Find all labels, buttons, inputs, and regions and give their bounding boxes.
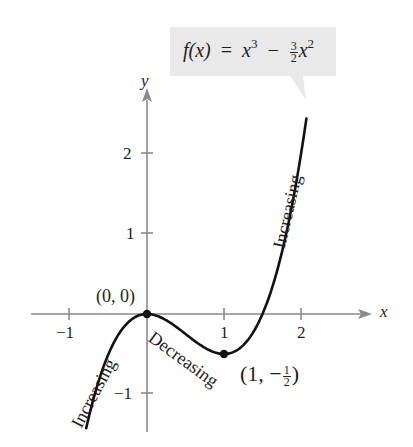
min-label-fraction: 12 <box>283 365 291 388</box>
formula-operator: − <box>267 39 278 61</box>
label-pointer <box>290 76 306 100</box>
y-axis-label: y <box>141 72 149 89</box>
formula-term1-base: x <box>242 39 251 61</box>
formula-term1-exp: 3 <box>251 36 258 51</box>
formula-coefficient: 32 <box>290 41 298 64</box>
min-label-post: ) <box>292 361 299 386</box>
formula-equals: = <box>221 39 232 61</box>
formula-lhs: f(x) <box>183 39 211 61</box>
formula-term2-base: x <box>299 39 308 61</box>
min-label-pre: (1, − <box>240 361 282 386</box>
relative-min-point <box>220 350 228 358</box>
relative-max-point <box>143 310 151 318</box>
x-tick-label-1: 1 <box>220 324 229 341</box>
y-axis-arrow-icon <box>142 88 152 102</box>
x-axis-label: x <box>380 303 388 320</box>
coef-denominator: 2 <box>290 53 298 64</box>
formula-term2-exp: 2 <box>308 36 315 51</box>
function-formula: f(x) = x3 − 32x2 <box>183 39 314 64</box>
y-tick-label-1: 1 <box>126 225 135 242</box>
x-tick-label-neg1: −1 <box>56 324 74 341</box>
relative-min-label: (1, −12) <box>240 363 299 388</box>
relative-max-label: (0, 0) <box>96 287 135 305</box>
x-axis <box>31 308 362 320</box>
y-tick-label-neg1: −1 <box>114 385 132 402</box>
y-axis <box>141 100 153 432</box>
x-tick-label-2: 2 <box>297 324 306 341</box>
y-tick-label-2: 2 <box>123 145 132 162</box>
